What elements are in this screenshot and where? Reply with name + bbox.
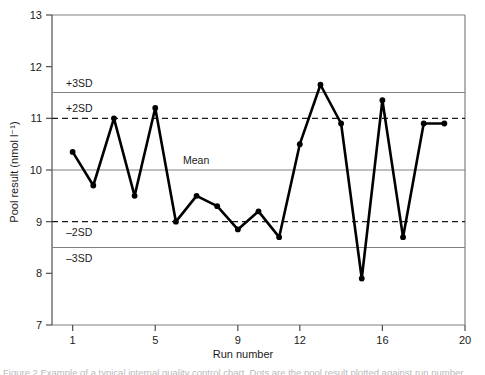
- control-label-4: –3SD: [66, 252, 93, 264]
- data-point: [132, 193, 138, 199]
- y-tick-label: 13: [30, 9, 42, 21]
- x-tick-label: 1: [70, 334, 76, 346]
- figure-container: +3SD+2SDMean–2SD–3SD 78910111213 1591216…: [0, 0, 485, 375]
- x-tick-label: 16: [376, 334, 388, 346]
- data-point: [441, 121, 447, 127]
- data-point: [235, 227, 241, 233]
- y-tick-label: 9: [36, 216, 42, 228]
- data-point: [214, 203, 220, 209]
- control-label-3: –2SD: [66, 226, 93, 238]
- y-tick-label: 12: [30, 61, 42, 73]
- control-label-0: +3SD: [66, 77, 93, 89]
- data-point: [421, 121, 427, 127]
- data-point: [297, 141, 303, 147]
- y-tick-label: 11: [31, 112, 42, 124]
- control-label-1: +2SD: [66, 102, 93, 114]
- x-tick-label: 12: [294, 334, 306, 346]
- figure-caption: Figure 2 Example of a typical internal q…: [0, 367, 485, 375]
- y-tick-label: 8: [36, 267, 42, 279]
- quality-control-chart: +3SD+2SDMean–2SD–3SD 78910111213 1591216…: [0, 0, 485, 360]
- data-point: [194, 193, 200, 199]
- data-series: [70, 82, 448, 282]
- data-point: [173, 219, 179, 225]
- data-point: [359, 276, 365, 282]
- data-point: [338, 121, 344, 127]
- x-tick-label: 20: [459, 334, 471, 346]
- y-axis-title: Pool result (nmol l⁻¹): [8, 121, 20, 222]
- x-axis-ticks: 159121620: [70, 325, 472, 346]
- data-point: [380, 97, 386, 103]
- data-point: [152, 105, 158, 111]
- series-polyline: [73, 85, 445, 279]
- data-point: [70, 149, 76, 155]
- y-tick-label: 10: [30, 164, 42, 176]
- series-markers: [70, 82, 448, 282]
- data-point: [276, 234, 282, 240]
- data-point: [256, 208, 262, 214]
- data-point: [318, 82, 324, 88]
- data-point: [111, 115, 117, 121]
- y-axis-ticks: 78910111213: [30, 9, 52, 331]
- x-tick-label: 5: [152, 334, 158, 346]
- control-label-2: Mean: [183, 154, 209, 166]
- y-tick-label: 7: [36, 319, 42, 331]
- data-point: [400, 234, 406, 240]
- x-axis-title: Run number: [213, 348, 274, 360]
- data-point: [90, 183, 96, 189]
- x-tick-label: 9: [235, 334, 241, 346]
